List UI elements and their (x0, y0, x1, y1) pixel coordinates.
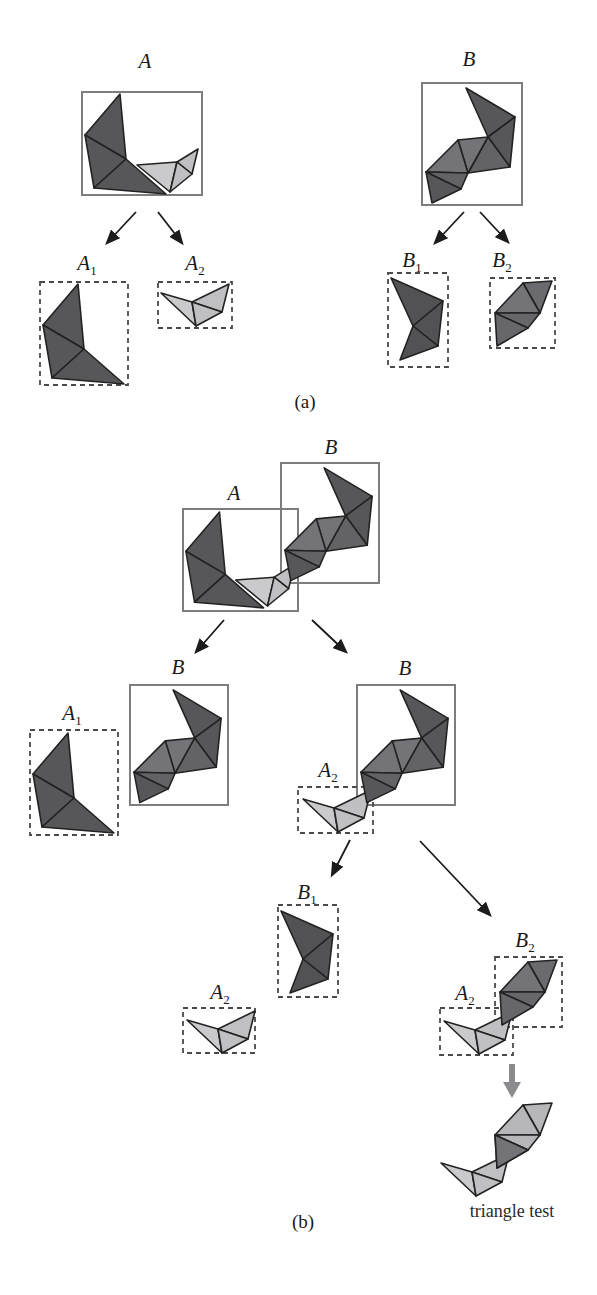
label-b-root: B (463, 49, 476, 70)
panel-b-caption: (b) (292, 1212, 314, 1231)
arrow-a2b-to-b2 (420, 841, 490, 915)
label-a2-vs-b2: A2 (455, 983, 474, 1007)
figure-canvas: A B A1 A2 B1 B2 (a) B A A1 B B A2 B1 A2 … (0, 0, 597, 1295)
mesh-b2 (495, 281, 552, 346)
arrow-a2b-to-b1 (332, 840, 350, 875)
arrow-root-to-a2b (312, 620, 346, 652)
mesh-b-vs-a1 (134, 690, 221, 803)
label-b1: B1 (402, 250, 421, 274)
label-a2: A2 (185, 253, 204, 277)
label-a1: A1 (77, 253, 96, 277)
mesh-b1 (391, 278, 443, 360)
arrow-b-to-b2 (480, 212, 508, 242)
arrow-a-to-a1 (107, 212, 136, 243)
panel-a-caption: (a) (294, 392, 315, 411)
label-b-overlap: B (325, 437, 338, 458)
label-b-vs-a2: B (399, 658, 412, 679)
label-b2-vs-a2: B2 (515, 930, 534, 954)
mesh-a1 (43, 284, 124, 384)
mesh-a2-vs-b (303, 790, 371, 832)
label-a-root: A (139, 51, 152, 72)
label-b-vs-a1: B (172, 657, 185, 678)
mesh-a-root (85, 94, 198, 194)
arrow-root-to-a1b (196, 620, 224, 652)
diagram-svg (0, 0, 597, 1295)
mesh-a2-vs-b1 (187, 1011, 255, 1053)
label-a-overlap: A (228, 483, 241, 504)
mesh-b-root (426, 88, 515, 203)
label-a2-vs-b: A2 (318, 760, 337, 784)
triangle-test-label: triangle test (470, 1202, 554, 1220)
label-a2-vs-b1: A2 (210, 982, 229, 1006)
label-b1-vs-a2: B1 (297, 882, 316, 906)
arrow-b-to-b1 (435, 212, 464, 243)
arrow-a-to-a2 (158, 212, 182, 243)
thick-arrow-head-icon (503, 1082, 521, 1098)
mesh-b1-vs-a2 (281, 911, 333, 993)
mesh-a-overlap (186, 512, 294, 608)
label-a1-vs-b: A1 (62, 703, 81, 727)
mesh-a1-vs-b (33, 733, 114, 833)
mesh-b2-vs-a2 (500, 960, 557, 1025)
label-b2: B2 (492, 250, 511, 274)
mesh-a2 (161, 284, 229, 326)
mesh-b-vs-a2 (361, 690, 448, 803)
